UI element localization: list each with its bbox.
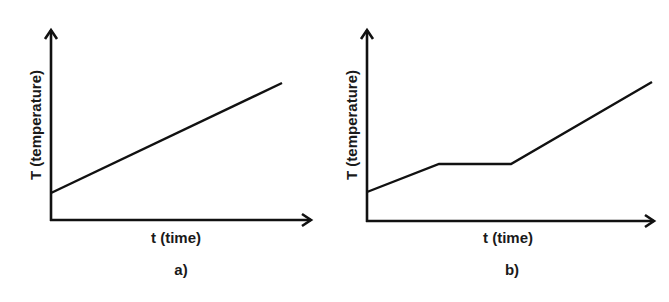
- y-axis: [361, 30, 373, 222]
- panel-caption: a): [174, 261, 187, 278]
- panel-a: T (temperature) t (time) a): [27, 30, 311, 278]
- x-axis-label: t (time): [151, 229, 201, 246]
- diagram-canvas: T (temperature) t (time) a) T (temperatu…: [0, 0, 669, 302]
- temperature-curve: [367, 82, 652, 192]
- panel-caption: b): [505, 261, 519, 278]
- panel-b: T (temperature) t (time) b): [343, 30, 654, 278]
- y-axis-label: T (temperature): [27, 70, 44, 180]
- x-axis-label: t (time): [483, 229, 533, 246]
- temperature-curve: [51, 83, 282, 193]
- y-axis-label: T (temperature): [343, 70, 360, 180]
- x-axis: [366, 215, 654, 227]
- x-axis: [50, 214, 311, 226]
